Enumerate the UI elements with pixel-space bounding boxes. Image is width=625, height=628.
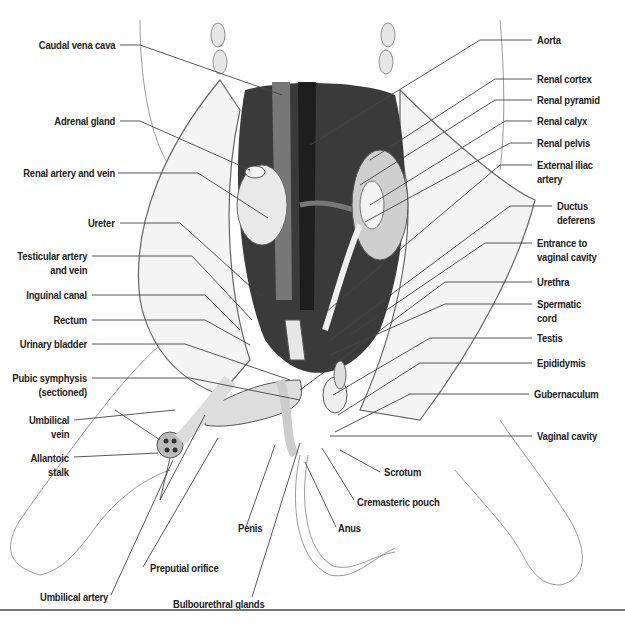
label-text: Vaginal cavity [537,429,597,443]
label-text: Penis [238,521,262,535]
label-text: vaginal cavity [537,250,597,264]
label-text: Renal pyramid [537,93,600,107]
label-inguinal-canal: Inguinal canal [26,288,87,302]
umbilical-vessel-1 [164,439,169,444]
label-text: Umbilical [29,413,69,427]
label-renal-pelvis: Renal pelvis [537,136,590,150]
vertebra-right-2 [379,50,393,74]
label-allantoic-stalk: Allantoicstalk [31,451,69,479]
label-ductus-deferens: Ductusdeferens [557,199,595,227]
umbilical-vessel-4 [173,448,178,453]
label-adrenal-gland: Adrenal gland [54,114,115,128]
leader-line [115,410,160,440]
label-text: Ductus [557,199,595,213]
left-abdominal-flap [138,80,250,395]
label-external-iliac-artery: External iliacartery [537,158,593,186]
label-rectum: Rectum [53,313,87,327]
label-penis: Penis [238,521,262,535]
vertebra-left-2 [213,50,227,74]
label-text: Allantoic [31,451,69,465]
bottom-rule [0,609,625,611]
label-epididymis: Epididymis [537,356,586,370]
label-renal-cortex: Renal cortex [537,72,592,86]
vertebra-right-1 [381,23,395,47]
renal-pelvis-shape [360,181,384,229]
leader-line [160,458,170,500]
label-text: Caudal vena cava [38,38,115,52]
label-text: Adrenal gland [54,114,115,128]
leader-line [340,450,380,472]
aorta-vessel [298,82,316,310]
label-text: Testicular artery [17,249,87,263]
label-text: deferens [557,213,595,227]
umbilical-vessel-2 [172,439,177,444]
label-ureter: Ureter [88,216,115,230]
label-text: Renal calyx [537,114,587,128]
label-entrance-to-vaginal-cavity: Entrance tovaginal cavity [537,236,597,264]
label-renal-calyx: Renal calyx [537,114,587,128]
label-text: Epididymis [537,356,586,370]
leader-line [305,462,336,527]
label-text: vein [29,427,69,441]
leader-line [143,438,218,567]
label-text: Rectum [53,313,87,327]
label-umbilical-artery: Umbilical artery [40,590,108,604]
vertebra-left-1 [211,23,225,47]
label-text: Inguinal canal [26,288,87,302]
umbilical-vessel-3 [165,448,170,453]
label-spermatic-cord: Spermaticcord [537,297,581,325]
leader-line [252,443,300,597]
label-text: Ureter [88,216,115,230]
label-urinary-bladder: Urinary bladder [20,337,87,351]
label-vaginal-cavity: Vaginal cavity [537,429,597,443]
label-text: Urinary bladder [20,337,87,351]
label-renal-artery-and-vein: Renal artery and vein [23,166,115,180]
label-text: Pubic symphysis [12,371,87,385]
label-anus: Anus [338,521,361,535]
label-text: stalk [31,465,69,479]
leader-line [74,453,158,457]
anatomical-diagram: Caudal vena cavaAdrenal glandRenal arter… [0,0,625,628]
label-gubernaculum: Gubernaculum [534,387,599,401]
label-text: and vein [17,263,87,277]
label-umbilical-vein: Umbilicalvein [29,413,69,441]
leader-line [322,448,354,500]
label-caudal-vena-cava: Caudal vena cava [38,38,115,52]
label-preputial-orifice: Preputial orifice [150,561,218,575]
label-text: Entrance to [537,236,597,250]
label-urethra: Urethra [537,275,569,289]
label-text: Renal cortex [537,72,592,86]
label-pubic-symphysis: Pubic symphysis(sectioned) [12,371,87,399]
label-text: cord [537,311,581,325]
adrenal-gland-shape [245,166,265,178]
label-testicular-artery-and-vein: Testicular arteryand vein [17,249,87,277]
fetal-pig-dissection-illustration [0,0,625,628]
label-renal-pyramid: Renal pyramid [537,93,600,107]
label-text: Scrotum [384,465,421,479]
left-kidney [237,165,287,245]
right-hindleg-outline [455,420,582,585]
label-text: Urethra [537,275,569,289]
label-scrotum: Scrotum [384,465,421,479]
label-text: External iliac [537,158,593,172]
leader-line [74,410,175,420]
label-text: Umbilical artery [40,590,108,604]
label-testis: Testis [537,331,563,345]
epididymis-shape [334,361,346,389]
label-text: Renal pelvis [537,136,590,150]
label-text: Cremasteric pouch [357,495,440,509]
label-text: Renal artery and vein [23,166,115,180]
label-text: Testis [537,331,563,345]
label-aorta: Aorta [537,33,561,47]
tail-outline-inner [305,455,395,567]
label-text: Gubernaculum [534,387,599,401]
leader-line [246,445,275,527]
label-text: Spermatic [537,297,581,311]
label-text: Anus [338,521,361,535]
label-cremasteric-pouch: Cremasteric pouch [357,495,440,509]
label-text: (sectioned) [12,385,87,399]
label-text: Aorta [537,33,561,47]
label-text: artery [537,172,593,186]
label-text: Preputial orifice [150,561,218,575]
